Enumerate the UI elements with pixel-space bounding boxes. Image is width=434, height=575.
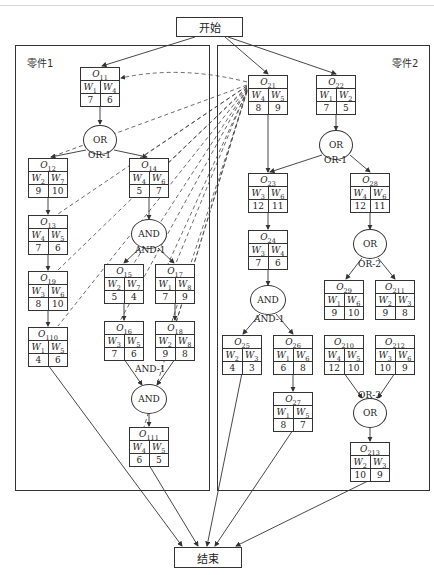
time-cell: 6 (274, 362, 293, 374)
machine-cell: W3 (370, 456, 390, 468)
operation-node-o211: O211W2W398 (375, 280, 415, 320)
machine-row: W1W8 (156, 278, 194, 290)
time-row: 79 (156, 290, 194, 303)
operation-title: O111 (130, 428, 168, 441)
time-cell: 6 (100, 94, 120, 106)
machine-row: W3W6 (29, 285, 67, 297)
machine-cell: W3 (249, 244, 268, 256)
machine-cell: W6 (48, 285, 68, 297)
machine-row: W3W5 (105, 335, 143, 347)
operation-title: O211 (376, 281, 414, 294)
time-cell: 12 (325, 362, 344, 374)
time-row: 87 (274, 418, 312, 431)
gate-label: AND-1 (135, 364, 166, 374)
gate-label: OR-2 (358, 259, 381, 269)
process-diagram: 开始 零件1 零件2 O11W1W476O12W2W7910O14W4W657O… (0, 0, 434, 575)
operation-title: O11 (81, 68, 119, 81)
machine-cell: W8 (175, 335, 195, 347)
time-row: 46 (29, 353, 67, 366)
gate-label: AND-1 (254, 314, 285, 324)
machine-row: W3W4 (249, 244, 287, 256)
machine-cell: W3 (395, 294, 415, 306)
machine-cell: W1 (325, 294, 344, 306)
time-cell: 9 (395, 362, 415, 374)
operation-title: O14 (130, 159, 168, 172)
time-cell: 8 (175, 348, 195, 360)
operation-node-o111: O111W4W565 (129, 427, 169, 467)
machine-cell: W2 (351, 456, 370, 468)
machine-cell: W4 (100, 81, 120, 93)
operation-node-o11: O11W1W476 (80, 67, 120, 107)
time-cell: 3 (242, 362, 262, 374)
gate-or-g7: OR (353, 398, 387, 428)
operation-title: O22 (317, 76, 355, 89)
machine-cell: W1 (156, 278, 175, 290)
machine-cell: W5 (268, 89, 288, 101)
machine-row: W4W5 (29, 229, 67, 241)
machine-cell: W3 (249, 187, 268, 199)
time-cell: 9 (376, 307, 395, 319)
operation-title: O28 (351, 174, 389, 187)
machine-cell: W4 (130, 441, 149, 453)
operation-title: O212 (376, 336, 414, 349)
time-cell: 9 (175, 291, 195, 303)
time-row: 75 (317, 101, 355, 114)
operation-node-o18: O18W2W898 (155, 321, 195, 361)
time-cell: 7 (149, 185, 169, 197)
operation-node-o110: O110W1W546 (28, 327, 68, 367)
machine-row: W4W6 (130, 172, 168, 184)
machine-cell: W2 (376, 294, 395, 306)
operation-title: O24 (249, 231, 287, 244)
time-cell: 7 (105, 348, 124, 360)
time-cell: 4 (124, 291, 144, 303)
end-node: 结束 (174, 547, 242, 568)
time-row: 76 (29, 241, 67, 254)
machine-cell: W4 (130, 172, 149, 184)
machine-row: W2W7 (29, 172, 67, 184)
machine-row: W2W7 (105, 278, 143, 290)
time-row: 910 (29, 184, 67, 197)
operation-title: O17 (156, 265, 194, 278)
time-row: 65 (130, 453, 168, 466)
machine-cell: W5 (48, 229, 68, 241)
machine-cell: W3 (242, 349, 262, 361)
machine-cell: W5 (124, 335, 144, 347)
time-cell: 9 (268, 102, 288, 114)
time-row: 57 (130, 184, 168, 197)
machine-cell: W8 (175, 278, 195, 290)
operation-title: O26 (274, 336, 312, 349)
gate-and-g3: AND (131, 384, 167, 414)
time-row: 109 (351, 468, 389, 481)
machine-cell: W1 (274, 349, 293, 361)
operation-title: O16 (105, 322, 143, 335)
operation-node-o15: O15W2W754 (104, 264, 144, 304)
machine-cell: W5 (293, 406, 313, 418)
gate-or-g5: OR (353, 229, 387, 259)
machine-cell: W4 (325, 349, 344, 361)
start-label: 开始 (199, 19, 221, 35)
machine-cell: W1 (317, 89, 336, 101)
operation-node-o12: O12W2W7910 (28, 158, 68, 198)
machine-row: W2W3 (351, 456, 389, 468)
operation-title: O19 (29, 272, 67, 285)
operation-title: O25 (223, 336, 261, 349)
machine-cell: W1 (29, 341, 48, 353)
machine-row: W2W3 (376, 294, 414, 306)
time-cell: 10 (351, 469, 370, 481)
operation-title: O213 (351, 443, 389, 456)
machine-cell: W3 (376, 349, 395, 361)
machine-row: W4W5 (249, 89, 287, 101)
machine-row: W1W2 (317, 89, 355, 101)
time-cell: 8 (249, 102, 268, 114)
time-row: 109 (376, 361, 414, 374)
operation-title: O21 (249, 76, 287, 89)
operation-title: O23 (249, 174, 287, 187)
time-cell: 10 (344, 362, 364, 374)
time-cell: 7 (156, 291, 175, 303)
operation-node-o16: O16W3W576 (104, 321, 144, 361)
start-node: 开始 (176, 17, 243, 37)
operation-node-o213: O213W2W3109 (350, 442, 390, 482)
machine-row: W1W4 (81, 81, 119, 93)
machine-row: W2W3 (223, 349, 261, 361)
operation-node-o19: O19W3W6810 (28, 271, 68, 311)
